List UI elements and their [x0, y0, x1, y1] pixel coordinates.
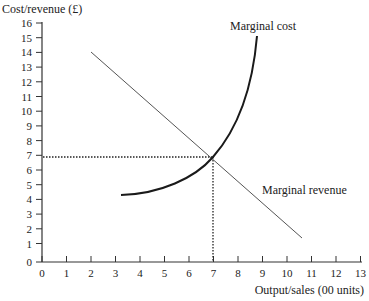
y-axis-ticks: 161514131211109876543210: [21, 17, 42, 268]
y-tick-label: 8: [27, 135, 33, 147]
x-tick-label: 8: [235, 267, 241, 279]
x-tick-label: 6: [186, 267, 192, 279]
marginal-revenue-line: [91, 52, 302, 238]
marginal-cost-curve: [121, 36, 257, 195]
x-tick-label: 10: [282, 267, 294, 279]
marginal-cost-label: Marginal cost: [230, 19, 297, 33]
x-tick-label: 0: [39, 267, 45, 279]
x-tick-label: 4: [137, 267, 143, 279]
y-tick-label: 9: [27, 120, 33, 132]
y-tick-label: 0: [27, 256, 33, 268]
x-tick-label: 1: [64, 267, 70, 279]
x-tick-label: 12: [331, 267, 342, 279]
y-axis-title: Cost/revenue (£): [2, 2, 82, 16]
y-tick-label: 11: [21, 91, 32, 103]
x-tick-label: 5: [162, 267, 168, 279]
marginal-revenue-label: Marginal revenue: [262, 183, 347, 197]
x-axis-ticks: 012345678910111213: [39, 256, 366, 279]
y-tick-label: 3: [27, 208, 33, 220]
y-tick-label: 6: [27, 164, 33, 176]
y-tick-label: 15: [21, 32, 33, 44]
x-tick-label: 7: [211, 267, 217, 279]
y-tick-label: 12: [21, 76, 32, 88]
x-axis-title: Output/sales (00 units): [255, 283, 364, 297]
x-tick-label: 9: [260, 267, 266, 279]
y-tick-label: 10: [21, 105, 33, 117]
chart-container: Cost/revenue (£) 16151413121110987654321…: [0, 0, 369, 301]
y-tick-label: 5: [27, 179, 33, 191]
y-tick-label: 7: [27, 149, 33, 161]
y-tick-label: 2: [27, 223, 33, 235]
x-tick-label: 13: [355, 267, 367, 279]
marginal-cost-revenue-chart: Cost/revenue (£) 16151413121110987654321…: [0, 0, 369, 301]
x-tick-label: 11: [306, 267, 317, 279]
y-tick-label: 4: [27, 193, 33, 205]
x-tick-label: 3: [113, 267, 119, 279]
y-tick-label: 14: [21, 46, 33, 58]
y-tick-label: 16: [21, 17, 33, 29]
x-tick-label: 2: [88, 267, 94, 279]
y-tick-label: 13: [21, 61, 33, 73]
y-tick-label: 1: [27, 238, 33, 250]
